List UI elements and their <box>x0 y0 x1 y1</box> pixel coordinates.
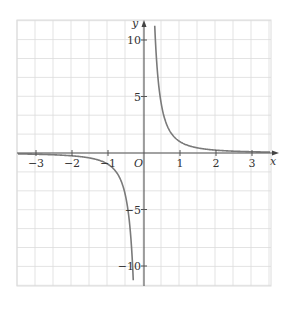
y-tick-label: 5 <box>134 91 141 104</box>
x-tick-label: 2 <box>213 157 220 170</box>
x-tick-label: 3 <box>249 157 256 170</box>
curve-branch <box>155 26 270 152</box>
x-axis-label: x <box>270 155 277 168</box>
x-tick-label: −3 <box>28 157 44 170</box>
y-tick-label: −5 <box>125 204 141 217</box>
function-plot: −3−2−1123−10−5510 x y O <box>0 0 286 316</box>
x-tick-label: −1 <box>100 157 116 170</box>
axes <box>17 20 279 286</box>
y-tick-label: 10 <box>127 34 141 47</box>
y-axis-label: y <box>131 17 139 30</box>
origin-label: O <box>134 157 143 170</box>
x-tick-label: −2 <box>64 157 80 170</box>
x-tick-label: 1 <box>177 157 184 170</box>
y-tick-label: −10 <box>118 260 141 273</box>
